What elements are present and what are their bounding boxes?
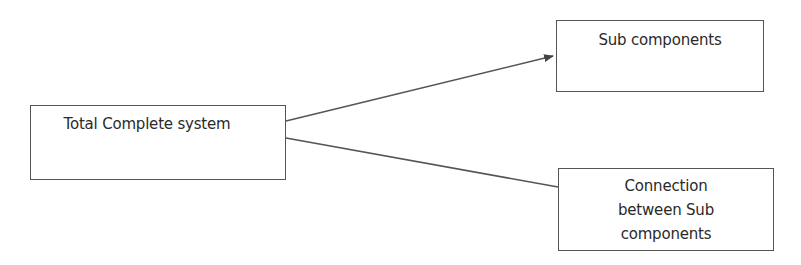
node-label-line: components — [559, 222, 773, 246]
node-sub-components: Sub components — [556, 20, 764, 92]
node-total-complete-system: Total Complete system — [30, 105, 286, 180]
node-connection-between-sub-components: Connection between Sub components — [558, 168, 774, 251]
node-label: Connection between Sub components — [559, 174, 773, 246]
edge-total-to-sub — [286, 56, 553, 121]
node-label-line: Connection — [559, 174, 773, 198]
node-label-line: between Sub — [559, 198, 773, 222]
node-label: Sub components — [557, 30, 763, 50]
edge-total-to-connection — [286, 138, 558, 187]
diagram-canvas: Total Complete system Sub components Con… — [0, 0, 801, 265]
node-label: Total Complete system — [31, 114, 263, 134]
